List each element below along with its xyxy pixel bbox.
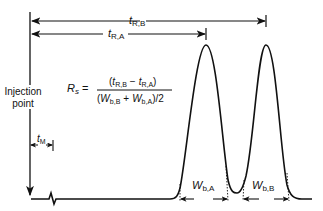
equation-denominator: (Wb,B+Wb,A)/2 <box>97 93 164 105</box>
t-ra-label: tR,A <box>108 27 125 41</box>
chromatogram-trace <box>31 45 312 204</box>
equation-lhs: Rs= <box>67 82 88 96</box>
w-bb-label: Wb,B <box>252 179 274 193</box>
t-m-label: tM <box>37 133 46 145</box>
w-ba-label: Wb,A <box>192 179 215 193</box>
chromatogram-diagram: tR,B tR,A Injection point Rs= (tR,B−tR,A… <box>0 0 323 211</box>
t-rb-label: tR,B <box>129 14 145 28</box>
injection-point-label-line1: Injection <box>4 86 41 97</box>
retention-time-b-arrow <box>32 15 266 27</box>
injection-point-label-line2: point <box>12 98 34 109</box>
resolution-equation: Rs= (tR,B−tR,A) (Wb,B+Wb,A)/2 <box>67 76 172 105</box>
equation-numerator: (tR,B−tR,A) <box>109 76 156 88</box>
